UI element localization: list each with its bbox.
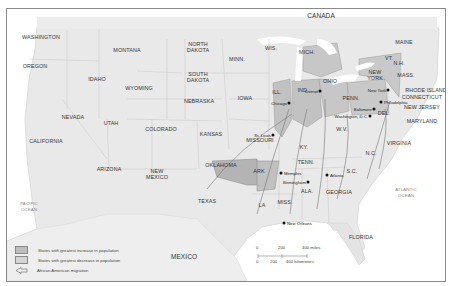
- city-label: Philadelphia: [384, 100, 407, 105]
- state-label: IOWA: [238, 95, 253, 101]
- city-dot-icon: [280, 172, 283, 175]
- state-label: ILL.: [272, 89, 281, 95]
- state-label: WASHINGTON: [22, 34, 60, 40]
- migration-arrow-icon: [15, 267, 28, 274]
- state-label: NEW MEXICO: [146, 168, 168, 180]
- city-label: New York: [368, 88, 386, 93]
- map-frame: CANADA MEXICO PACIFIC OCEAN ATLANTIC OCE…: [6, 8, 446, 282]
- city-label: Detroit: [305, 89, 318, 94]
- state-label: N.C.: [365, 150, 376, 156]
- state-label: MAINE: [395, 39, 413, 45]
- city-dot-icon: [373, 108, 376, 111]
- state-label: TENN.: [298, 159, 315, 165]
- city-label: Atlanta: [330, 173, 343, 178]
- city-dot-icon: [387, 89, 390, 92]
- legend-item-increase: States with greatest increase in populat…: [15, 245, 120, 255]
- state-label: N.H.: [393, 60, 404, 66]
- city-dot-icon: [272, 134, 275, 137]
- legend-label: States with greatest decrease in populat…: [38, 258, 120, 263]
- state-label: NEW JERSEY: [404, 104, 440, 110]
- state-label: IDAHO: [88, 76, 106, 82]
- state-label: MARYLAND: [407, 118, 438, 124]
- scale-tick: 400 miles: [302, 245, 320, 250]
- scale-tick: 400 kilometers: [286, 259, 314, 264]
- city-dot-icon: [326, 174, 329, 177]
- state-label: PENN.: [343, 95, 360, 101]
- state-label: KANSAS: [200, 131, 222, 137]
- increase-swatch-icon: [15, 246, 28, 254]
- country-label-canada: CANADA: [307, 13, 335, 19]
- state-label: CONNECTICUT: [402, 94, 442, 100]
- state-label: WYOMING: [125, 85, 153, 91]
- ocean-label-atlantic: ATLANTIC OCEAN: [395, 187, 417, 199]
- country-label-mexico: MEXICO: [171, 254, 197, 260]
- state-label: WIS.: [265, 45, 277, 51]
- ocean-label-pacific: PACIFIC OCEAN: [20, 201, 38, 213]
- scale-tick: 0: [256, 245, 258, 250]
- state-label: NEVADA: [62, 114, 84, 120]
- state-label: TEXAS: [198, 198, 216, 204]
- state-label: MASS.: [397, 72, 414, 78]
- city-label: Chicago: [271, 101, 287, 106]
- state-label: DEL.: [378, 110, 390, 116]
- legend-label: States with greatest increase in populat…: [38, 248, 119, 253]
- state-label: FLORIDA: [349, 234, 373, 240]
- legend-item-decrease: States with greatest decrease in populat…: [15, 255, 120, 265]
- scale-tick: 0: [256, 259, 258, 264]
- state-label: KY.: [300, 144, 308, 150]
- city-label: St. Louis: [254, 133, 271, 138]
- state-label: OKLAHOMA: [205, 162, 236, 168]
- scale-tick: 200: [270, 259, 277, 264]
- state-label: MISS.: [277, 199, 292, 205]
- city-label: Washington, D.C.: [334, 114, 368, 119]
- map-canvas: [7, 9, 445, 281]
- city-label: Memphis: [284, 171, 301, 176]
- city-dot-icon: [288, 102, 291, 105]
- state-label: OREGON: [23, 63, 48, 69]
- city-label: New Orleans: [287, 221, 312, 226]
- city-dot-icon: [369, 115, 372, 118]
- state-label: LA: [259, 202, 266, 208]
- state-label: VIRGINIA: [387, 140, 411, 146]
- state-label: OHIO: [323, 78, 337, 84]
- state-label: UTAH: [104, 120, 119, 126]
- state-label: S.C.: [347, 168, 358, 174]
- map-legend: States with greatest increase in populat…: [15, 245, 120, 275]
- decrease-swatch-icon: [15, 256, 28, 264]
- city-dot-icon: [319, 90, 322, 93]
- state-label: MONTANA: [113, 47, 140, 53]
- legend-label: African American migration: [37, 268, 88, 273]
- state-label: COLORADO: [145, 126, 177, 132]
- scale-tick: 200: [278, 245, 285, 250]
- city-dot-icon: [307, 181, 310, 184]
- state-label: ARK: [253, 168, 264, 174]
- state-label: SOUTH DAKOTA: [187, 71, 209, 83]
- state-label: MICH.: [299, 49, 315, 55]
- legend-item-migration: African American migration: [15, 265, 120, 275]
- state-label: NEW YORK: [367, 69, 383, 81]
- city-dot-icon: [283, 222, 286, 225]
- city-label: Birmingham: [283, 180, 306, 185]
- state-label: MINN.: [229, 56, 245, 62]
- state-label: NEBRASKA: [184, 98, 214, 104]
- state-label: GEORGIA: [326, 189, 352, 195]
- state-label: CALIFORNIA: [29, 138, 62, 144]
- state-label: NORTH DAKOTA: [187, 41, 209, 53]
- state-label: W.V.: [336, 126, 347, 132]
- state-label: MISSOURI: [246, 137, 273, 143]
- city-label: Baltimore: [354, 107, 372, 112]
- state-label: VT.: [385, 55, 393, 61]
- state-label: RHODE ISLAND: [405, 87, 446, 93]
- city-dot-icon: [380, 101, 383, 104]
- state-label: ALA.: [301, 188, 313, 194]
- state-label: ARIZONA: [97, 166, 122, 172]
